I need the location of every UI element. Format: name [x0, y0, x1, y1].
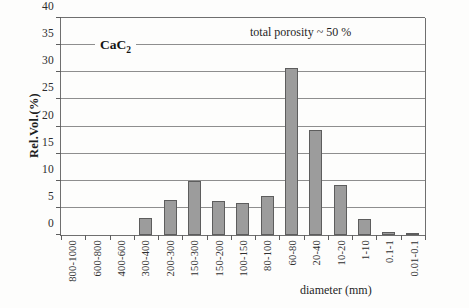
- x-axis-label-cell: 1-10: [353, 240, 377, 288]
- y-axis-tick-label: 35: [42, 27, 54, 39]
- x-axis-tick-label: 1-10: [360, 240, 371, 260]
- x-axis-label-cell: 10-20: [328, 240, 352, 288]
- x-axis-tick-label: 60-80: [286, 240, 297, 266]
- x-axis-tick-label: 300-400: [140, 240, 151, 276]
- bar-slot: [134, 18, 158, 235]
- bar-slot: [61, 18, 85, 235]
- x-axis-tick-label: 150-300: [189, 240, 200, 276]
- x-axis-label-cell: 0.1-1: [377, 240, 401, 288]
- x-axis-label-cell: 80-100: [255, 240, 279, 288]
- x-axis-label-cell: 60-80: [280, 240, 304, 288]
- x-axis-title: diameter (mm): [300, 283, 372, 298]
- x-axis-tick-label: 400-600: [116, 240, 127, 276]
- x-axis-tick-label: 0.1-1: [384, 240, 395, 263]
- bar: [285, 68, 298, 235]
- x-axis-tick-label: 600-800: [91, 240, 102, 276]
- x-axis-tick-label: 150-200: [213, 240, 224, 276]
- chart-figure: Rel.Vol.(%) 0510152025303540 800-1000600…: [0, 0, 469, 308]
- y-axis-tick-label: 0: [48, 217, 54, 229]
- series-label-subscript: 2: [126, 45, 131, 55]
- x-axis-label-cell: 150-300: [182, 240, 206, 288]
- bar-slot: [158, 18, 182, 235]
- x-axis-label-cell: 600-800: [84, 240, 108, 288]
- series-label-text: CaC: [100, 37, 126, 52]
- bar-slot: [352, 18, 376, 235]
- bar: [309, 130, 322, 235]
- bar: [261, 196, 274, 235]
- y-axis-title: Rel.Vol.(%): [27, 93, 42, 158]
- y-axis-tick-label: 10: [42, 163, 54, 175]
- bar-slot: [279, 18, 303, 235]
- bar-slot: [401, 18, 425, 235]
- x-axis-labels: 800-1000600-800400-600300-400200-300150-…: [60, 240, 426, 288]
- y-axis-tick-label: 40: [42, 0, 54, 12]
- bar: [334, 185, 347, 235]
- bar: [406, 233, 419, 235]
- x-axis-label-cell: 400-600: [109, 240, 133, 288]
- porosity-annotation: total porosity ~ 50 %: [246, 25, 355, 40]
- x-axis-label-cell: 800-1000: [60, 240, 84, 288]
- series-label: CaC2: [95, 37, 136, 55]
- bar: [236, 203, 249, 235]
- x-axis-label-cell: 150-200: [206, 240, 230, 288]
- x-axis-tick-label: 100-150: [238, 240, 249, 276]
- bar: [358, 219, 371, 235]
- x-axis-label-cell: 100-150: [231, 240, 255, 288]
- x-axis-tick-label: 200-300: [164, 240, 175, 276]
- x-axis-label-cell: 0.01-0.1: [402, 240, 426, 288]
- x-axis-tick-label: 0.01-0.1: [408, 240, 419, 277]
- bar-slot: [376, 18, 400, 235]
- bar-slot: [182, 18, 206, 235]
- bar: [382, 232, 395, 235]
- bar-slot: [304, 18, 328, 235]
- bar: [188, 181, 201, 235]
- bar-slot: [231, 18, 255, 235]
- bar: [164, 200, 177, 235]
- x-axis-tick-label: 80-100: [262, 240, 273, 271]
- bar-slot: [255, 18, 279, 235]
- y-axis-tick-label: 20: [42, 109, 54, 121]
- x-axis-label-cell: 300-400: [133, 240, 157, 288]
- y-axis-tick-label: 30: [42, 54, 54, 66]
- bar-slot: [328, 18, 352, 235]
- y-axis-tick-label: 15: [42, 136, 54, 148]
- y-axis-tick-label: 5: [48, 190, 54, 202]
- x-axis-tick-label: 10-20: [335, 240, 346, 266]
- x-axis-label-cell: 200-300: [158, 240, 182, 288]
- x-axis-tick-label: 800-1000: [67, 240, 78, 282]
- x-axis-label-cell: 20-40: [304, 240, 328, 288]
- x-axis-tick-label: 20-40: [311, 240, 322, 266]
- y-axis-tick-label: 25: [42, 81, 54, 93]
- bar: [212, 201, 225, 235]
- bar: [139, 218, 152, 235]
- bar-slot: [207, 18, 231, 235]
